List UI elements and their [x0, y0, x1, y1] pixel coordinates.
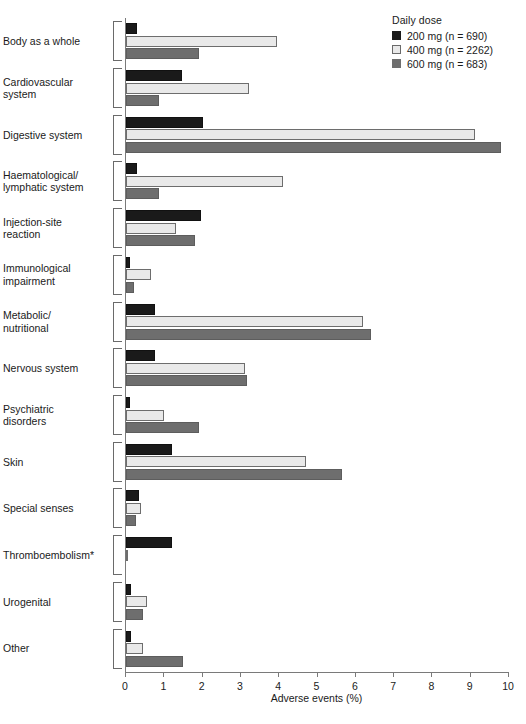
- x-tick-label: 8: [428, 680, 434, 692]
- bar-200mg: [126, 584, 131, 595]
- x-tick-label: 3: [237, 680, 243, 692]
- x-axis-line: 012345678910: [125, 672, 508, 673]
- bar-200mg: [126, 163, 137, 174]
- bar-600mg: [126, 329, 371, 340]
- x-tick: [355, 672, 356, 677]
- category-label: Urogenital: [3, 596, 107, 609]
- bar-group: Immunologicalimpairment: [125, 252, 508, 299]
- bar-200mg: [126, 23, 137, 34]
- bar-200mg: [126, 257, 130, 268]
- x-tick-label: 2: [199, 680, 205, 692]
- x-tick-label: 10: [502, 680, 514, 692]
- category-label: Immunologicalimpairment: [3, 262, 107, 287]
- x-tick-label: 4: [275, 680, 281, 692]
- category-7: Metabolic/nutritional: [3, 298, 125, 345]
- bar-600mg: [126, 188, 159, 199]
- bar-600mg: [126, 422, 199, 433]
- category-brace: [113, 348, 122, 388]
- bar-group: Nervous system: [125, 345, 508, 392]
- bar-200mg: [126, 210, 201, 221]
- x-tick: [317, 672, 318, 677]
- category-label: Nervous system: [3, 362, 107, 375]
- x-tick-label: 7: [390, 680, 396, 692]
- x-tick: [508, 672, 509, 677]
- bar-600mg: [126, 235, 195, 246]
- category-label: Cardiovascularsystem: [3, 76, 107, 101]
- category-brace: [113, 442, 122, 482]
- x-tick: [278, 672, 279, 677]
- category-brace: [113, 21, 122, 61]
- bar-400mg: [126, 316, 363, 327]
- x-tick-label: 0: [122, 680, 128, 692]
- bar-600mg: [126, 95, 159, 106]
- category-3: Digestive system: [3, 111, 125, 158]
- bar-200mg: [126, 117, 203, 128]
- x-tick: [125, 672, 126, 677]
- bar-group: Body as a whole: [125, 18, 508, 65]
- bar-600mg: [126, 282, 134, 293]
- bar-600mg: [126, 142, 501, 153]
- category-brace: [113, 582, 122, 622]
- bar-600mg: [126, 375, 247, 386]
- bar-600mg: [126, 469, 342, 480]
- category-label: Body as a whole: [3, 35, 107, 48]
- bar-group: Special senses: [125, 485, 508, 532]
- bar-group: Haematological/lymphatic system: [125, 158, 508, 205]
- bar-group: Other: [125, 625, 508, 672]
- category-14: Other: [3, 625, 125, 672]
- bar-400mg: [126, 456, 306, 467]
- category-brace: [113, 68, 122, 108]
- category-8: Nervous system: [3, 345, 125, 392]
- x-tick: [202, 672, 203, 677]
- bar-400mg: [126, 223, 176, 234]
- category-brace: [113, 395, 122, 435]
- category-label: Injection-sitereaction: [3, 216, 107, 241]
- bar-200mg: [126, 490, 139, 501]
- category-5: Injection-sitereaction: [3, 205, 125, 252]
- bar-600mg: [126, 609, 143, 620]
- bar-200mg: [126, 631, 131, 642]
- x-tick: [470, 672, 471, 677]
- bar-400mg: [126, 503, 141, 514]
- category-label: Psychiatricdisorders: [3, 403, 107, 428]
- bar-400mg: [126, 550, 128, 561]
- x-tick-label: 1: [160, 680, 166, 692]
- bar-group: Metabolic/nutritional: [125, 298, 508, 345]
- category-brace: [113, 535, 122, 575]
- bar-400mg: [126, 363, 245, 374]
- category-brace: [113, 208, 122, 248]
- bar-400mg: [126, 269, 151, 280]
- category-label: Digestive system: [3, 129, 107, 142]
- bar-600mg: [126, 48, 199, 59]
- x-tick-label: 9: [467, 680, 473, 692]
- category-6: Immunologicalimpairment: [3, 252, 125, 299]
- bar-group: Psychiatricdisorders: [125, 392, 508, 439]
- category-label: Metabolic/nutritional: [3, 309, 107, 334]
- category-label: Special senses: [3, 502, 107, 515]
- category-2: Cardiovascularsystem: [3, 65, 125, 112]
- category-label: Thromboembolism*: [3, 549, 107, 562]
- category-4: Haematological/lymphatic system: [3, 158, 125, 205]
- category-brace: [113, 255, 122, 295]
- x-axis-title: Adverse events (%): [125, 692, 508, 704]
- bar-400mg: [126, 410, 164, 421]
- bar-200mg: [126, 537, 172, 548]
- bar-600mg: [126, 515, 136, 526]
- category-12: Thromboembolism*: [3, 532, 125, 579]
- category-1: Body as a whole: [3, 18, 125, 65]
- category-11: Special senses: [3, 485, 125, 532]
- x-tick: [431, 672, 432, 677]
- category-brace: [113, 488, 122, 528]
- category-label: Other: [3, 642, 107, 655]
- bar-400mg: [126, 36, 277, 47]
- category-brace: [113, 115, 122, 155]
- x-tick-label: 6: [352, 680, 358, 692]
- bar-200mg: [126, 304, 155, 315]
- category-9: Psychiatricdisorders: [3, 392, 125, 439]
- x-tick-label: 5: [314, 680, 320, 692]
- x-tick: [393, 672, 394, 677]
- bar-group: Injection-sitereaction: [125, 205, 508, 252]
- bar-group: Thromboembolism*: [125, 532, 508, 579]
- x-tick: [163, 672, 164, 677]
- category-brace: [113, 629, 122, 669]
